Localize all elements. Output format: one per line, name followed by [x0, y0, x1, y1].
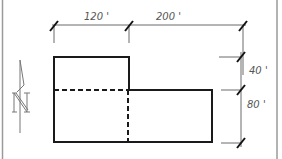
dimension-label-40: 40 '	[249, 65, 268, 76]
top-dimension: 120 ' 200 '	[50, 11, 247, 75]
site-plan-diagram: 120 ' 200 ' 40 ' 80 '	[0, 0, 282, 159]
dimension-label-200: 200 '	[156, 11, 181, 22]
lot-outline	[54, 57, 212, 142]
dimension-label-80: 80 '	[247, 99, 266, 110]
dimension-label-120: 120 '	[84, 11, 109, 22]
north-arrow-icon	[12, 60, 30, 133]
